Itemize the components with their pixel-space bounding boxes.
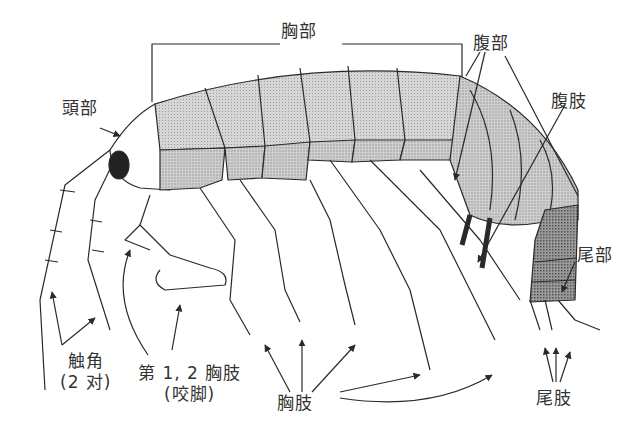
label-urosome: 尾部 bbox=[577, 247, 613, 264]
label-antennae-group: 触角 (2 对) bbox=[60, 351, 111, 394]
label-gnathopods-note: (咬脚) bbox=[138, 384, 241, 405]
amphipod-diagram: 胸部 頭部 腹部 腹肢 尾部 触角 (2 对) 第 1, 2 胸肢 (咬脚) 胸… bbox=[0, 0, 644, 434]
label-uropods: 尾肢 bbox=[536, 390, 572, 407]
antenna-2 bbox=[88, 165, 112, 330]
label-antennae-note: (2 对) bbox=[60, 372, 111, 393]
label-antennae: 触角 bbox=[60, 351, 111, 372]
label-thorax: 胸部 bbox=[281, 23, 317, 40]
label-pleopods: 腹肢 bbox=[551, 93, 587, 110]
head-pointer bbox=[100, 128, 120, 136]
label-gnathopods-group: 第 1, 2 胸肢 (咬脚) bbox=[138, 363, 241, 406]
label-gnathopods: 第 1, 2 胸肢 bbox=[138, 363, 241, 384]
label-head: 頭部 bbox=[62, 100, 98, 117]
label-abdomen: 腹部 bbox=[473, 35, 509, 52]
label-pereopods: 胸肢 bbox=[277, 395, 313, 412]
